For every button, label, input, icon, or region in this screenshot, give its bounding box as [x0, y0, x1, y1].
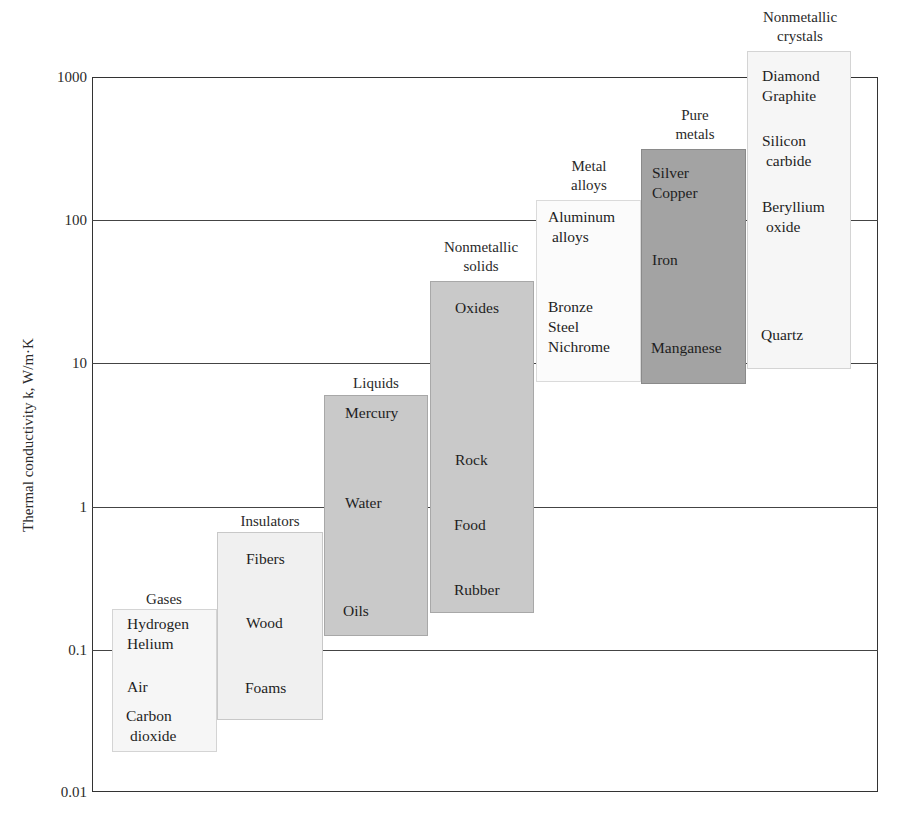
item-rubber: Rubber	[454, 580, 500, 600]
item-air: Air	[127, 677, 148, 697]
ytick-100: 100	[65, 212, 88, 229]
item-beryllium-oxide: Beryllium oxide	[762, 197, 825, 237]
ytick-0.1: 0.1	[68, 642, 87, 659]
item-water: Water	[345, 493, 382, 513]
range-box-liquids	[324, 395, 428, 636]
category-label-liquids: Liquids	[353, 374, 399, 393]
item-mercury: Mercury	[345, 403, 398, 423]
ytick-0.01: 0.01	[61, 784, 87, 801]
category-label-insulators: Insulators	[240, 512, 299, 531]
item-iron: Iron	[652, 250, 678, 270]
item-oils: Oils	[343, 601, 369, 621]
category-label-nonmetallic-crystals: Nonmetallic crystals	[763, 8, 837, 46]
item-bronze-steel-nichrome: Bronze Steel Nichrome	[548, 297, 610, 357]
item-quartz: Quartz	[761, 325, 803, 345]
item-foams: Foams	[245, 678, 286, 698]
category-label-metal-alloys: Metal alloys	[571, 157, 607, 195]
item-wood: Wood	[246, 613, 283, 633]
category-label-pure-metals: Pure metals	[675, 106, 714, 144]
ytick-1000: 1000	[57, 69, 87, 86]
item-diamond-graphite: Diamond Graphite	[762, 66, 820, 106]
item-carbon-dioxide: Carbon dioxide	[126, 706, 176, 746]
range-box-nonmetallic-solids	[430, 281, 534, 613]
item-aluminum-alloys: Aluminum alloys	[548, 207, 615, 247]
item-rock: Rock	[455, 450, 488, 470]
ytick-1: 1	[80, 499, 88, 516]
ytick-10: 10	[72, 355, 87, 372]
item-silver-copper: Silver Copper	[652, 163, 698, 203]
item-food: Food	[454, 515, 486, 535]
item-oxides: Oxides	[455, 298, 499, 318]
item-hydrogen-helium: Hydrogen Helium	[127, 614, 189, 654]
item-fibers: Fibers	[246, 549, 285, 569]
item-manganese: Manganese	[651, 338, 722, 358]
item-silicon-carbide: Silicon carbide	[762, 131, 811, 171]
category-label-gases: Gases	[146, 590, 182, 609]
category-label-nonmetallic-solids: Nonmetallic solids	[444, 238, 518, 276]
y-axis-label: Thermal conductivity k, W/m·K	[20, 338, 37, 532]
